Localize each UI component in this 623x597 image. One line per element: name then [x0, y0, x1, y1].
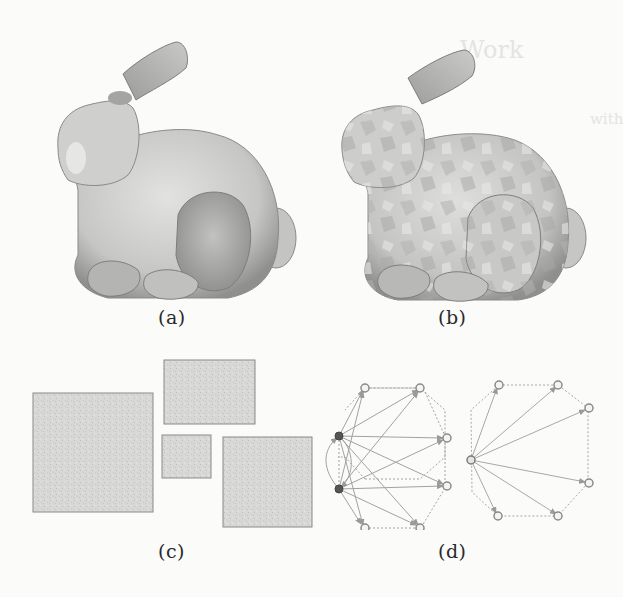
- bunny-mesh-b: [318, 38, 588, 308]
- node: [494, 512, 502, 520]
- graph-left: [326, 388, 445, 528]
- node: [361, 524, 369, 530]
- node: [495, 381, 503, 389]
- graph-right: [471, 385, 588, 516]
- packed-rectangles: [0, 340, 320, 540]
- rect-small: [162, 435, 211, 478]
- graph-left-nodes: [335, 384, 451, 530]
- directed-graphs: [300, 370, 623, 530]
- node: [361, 384, 369, 392]
- node: [585, 404, 593, 412]
- node: [554, 512, 562, 520]
- hub-node: [335, 485, 343, 493]
- node: [416, 384, 424, 392]
- subfigure-a: [28, 30, 298, 305]
- node: [443, 434, 451, 442]
- node: [416, 524, 424, 530]
- graph-right-nodes: [467, 381, 593, 520]
- subfigure-c: [0, 340, 320, 540]
- caption-a: (a): [158, 306, 186, 328]
- bunny-mesh-a: [28, 30, 298, 305]
- rect-top: [164, 360, 255, 424]
- caption-b: (b): [438, 306, 467, 328]
- subfigure-b: [318, 38, 588, 308]
- hub-node: [467, 456, 475, 464]
- node: [443, 482, 451, 490]
- caption-d: (d): [438, 540, 467, 562]
- subfigure-d: [300, 370, 623, 530]
- node: [585, 479, 593, 487]
- caption-c: (c): [158, 540, 185, 562]
- figure-page: Work with: [0, 0, 623, 597]
- hub-node: [335, 432, 343, 440]
- rect-right: [223, 437, 312, 527]
- rect-large: [33, 393, 153, 512]
- node: [554, 381, 562, 389]
- bleed-line: with: [590, 110, 623, 128]
